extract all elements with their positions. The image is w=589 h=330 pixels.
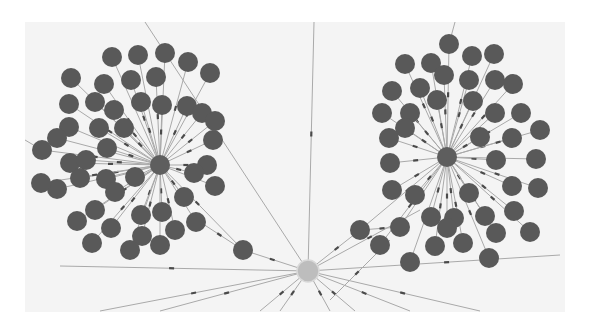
graph-node-right[interactable] — [439, 34, 459, 54]
graph-node-right[interactable] — [400, 252, 420, 272]
graph-node-right[interactable] — [503, 74, 523, 94]
graph-node-left[interactable] — [152, 95, 172, 115]
hub-left-node[interactable] — [150, 155, 170, 175]
graph-node-left[interactable] — [146, 67, 166, 87]
graph-node-left[interactable] — [152, 202, 172, 222]
graph-node-right[interactable] — [486, 223, 506, 243]
edge-arrow-marker — [413, 146, 418, 148]
graph-node-right[interactable] — [459, 70, 479, 90]
graph-node-right[interactable] — [395, 54, 415, 74]
node-circle — [503, 74, 523, 94]
node-circle — [67, 211, 87, 231]
graph-node-right[interactable] — [484, 44, 504, 64]
graph-node-right[interactable] — [380, 153, 400, 173]
graph-node-left[interactable] — [32, 140, 52, 160]
graph-node-right[interactable] — [390, 217, 410, 237]
node-circle — [59, 94, 79, 114]
graph-node-left[interactable] — [102, 47, 122, 67]
graph-node-left[interactable] — [85, 200, 105, 220]
graph-node-right[interactable] — [370, 235, 390, 255]
graph-node-right[interactable] — [479, 248, 499, 268]
node-circle — [233, 240, 253, 260]
graph-node-left[interactable] — [186, 212, 206, 232]
graph-node-left[interactable] — [76, 150, 96, 170]
node-circle — [120, 240, 140, 260]
graph-node-left[interactable] — [131, 205, 151, 225]
graph-node-left[interactable] — [114, 118, 134, 138]
bridge-right-node[interactable] — [350, 220, 370, 240]
graph-node-right[interactable] — [459, 183, 479, 203]
node-circle — [434, 65, 454, 85]
graph-node-left[interactable] — [178, 52, 198, 72]
graph-node-right[interactable] — [382, 81, 402, 101]
graph-node-right[interactable] — [520, 222, 540, 242]
graph-node-left[interactable] — [155, 43, 175, 63]
graph-node-left[interactable] — [94, 74, 114, 94]
graph-node-left[interactable] — [89, 118, 109, 138]
graph-node-left[interactable] — [67, 211, 87, 231]
node-circle — [32, 140, 52, 160]
graph-node-right[interactable] — [427, 90, 447, 110]
graph-node-right[interactable] — [372, 103, 392, 123]
graph-node-left[interactable] — [205, 111, 225, 131]
graph-node-right[interactable] — [486, 150, 506, 170]
node-circle — [114, 118, 134, 138]
graph-node-left[interactable] — [82, 233, 102, 253]
graph-node-left[interactable] — [205, 176, 225, 196]
graph-canvas[interactable] — [0, 0, 589, 330]
hub-right-node[interactable] — [437, 147, 457, 167]
graph-node-left[interactable] — [121, 70, 141, 90]
graph-node-left[interactable] — [184, 163, 204, 183]
node-circle — [382, 81, 402, 101]
graph-node-right[interactable] — [485, 70, 505, 90]
graph-node-right[interactable] — [502, 128, 522, 148]
graph-node-right[interactable] — [410, 78, 430, 98]
graph-node-right[interactable] — [504, 201, 524, 221]
graph-node-left[interactable] — [85, 92, 105, 112]
graph-node-right[interactable] — [485, 103, 505, 123]
bridge-left-node[interactable] — [233, 240, 253, 260]
graph-node-right[interactable] — [395, 118, 415, 138]
graph-node-left[interactable] — [31, 173, 51, 193]
graph-node-left[interactable] — [70, 168, 90, 188]
graph-node-right[interactable] — [526, 149, 546, 169]
graph-node-right[interactable] — [453, 233, 473, 253]
graph-node-right[interactable] — [475, 206, 495, 226]
graph-node-left[interactable] — [131, 92, 151, 112]
node-circle — [125, 167, 145, 187]
graph-node-left[interactable] — [104, 100, 124, 120]
node-circle — [82, 233, 102, 253]
graph-node-left[interactable] — [97, 138, 117, 158]
graph-node-left[interactable] — [105, 182, 125, 202]
graph-node-left[interactable] — [165, 220, 185, 240]
graph-node-right[interactable] — [530, 120, 550, 140]
graph-node-left[interactable] — [203, 130, 223, 150]
graph-node-left[interactable] — [200, 63, 220, 83]
graph-node-right[interactable] — [502, 176, 522, 196]
graph-node-left[interactable] — [101, 218, 121, 238]
graph-node-left[interactable] — [61, 68, 81, 88]
graph-node-right[interactable] — [405, 185, 425, 205]
graph-node-left[interactable] — [150, 235, 170, 255]
graph-node-left[interactable] — [59, 94, 79, 114]
graph-node-right[interactable] — [511, 103, 531, 123]
node-circle — [174, 187, 194, 207]
graph-node-right[interactable] — [425, 236, 445, 256]
graph-node-left[interactable] — [120, 240, 140, 260]
graph-node-right[interactable] — [437, 218, 457, 238]
graph-node-right[interactable] — [470, 127, 490, 147]
center-node[interactable] — [297, 260, 319, 282]
node-circle — [528, 178, 548, 198]
node-circle — [400, 252, 420, 272]
graph-node-right[interactable] — [528, 178, 548, 198]
graph-node-right[interactable] — [382, 180, 402, 200]
graph-node-right[interactable] — [463, 91, 483, 111]
node-circle — [437, 147, 457, 167]
graph-node-right[interactable] — [434, 65, 454, 85]
graph-node-left[interactable] — [174, 187, 194, 207]
graph-node-right[interactable] — [462, 46, 482, 66]
graph-node-left[interactable] — [128, 45, 148, 65]
node-circle — [205, 176, 225, 196]
graph-node-left[interactable] — [125, 167, 145, 187]
node-circle — [410, 78, 430, 98]
